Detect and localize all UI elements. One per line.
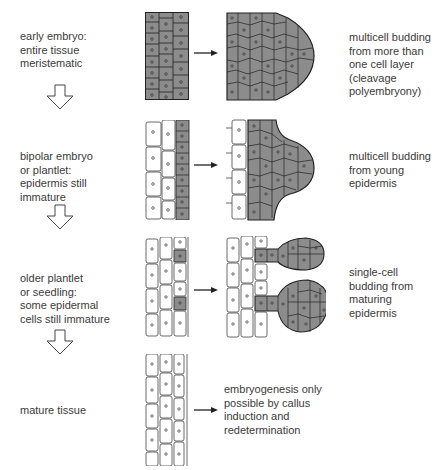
stage-3-label: older plantlet or seedling: some epiderm… [20, 272, 135, 326]
outcome-1-label: multicell budding from more than one cel… [349, 31, 443, 99]
right-arrow-icon [193, 160, 219, 170]
down-arrow-icon [45, 84, 75, 110]
single-cell-bud-drawing [226, 236, 326, 340]
stage-1-label: early embryo: entire tissue meristematic [20, 30, 135, 71]
outcome-3-label: single-cell budding from maturing epider… [349, 266, 443, 320]
right-arrow-icon [193, 285, 219, 295]
down-arrow-icon [45, 329, 75, 355]
outcome-4-label: embryogenesis only possible by callus in… [224, 383, 364, 437]
right-arrow-icon [193, 48, 219, 58]
down-arrow-icon [45, 204, 75, 230]
meristematic-tissue-drawing [145, 12, 190, 100]
stage-2-label: bipolar embryo or plantlet: epidermis st… [20, 150, 135, 204]
multicell-bud-drawing [226, 12, 316, 102]
immature-epidermis-drawing [145, 120, 190, 220]
maturing-epidermis-drawing [145, 237, 190, 337]
right-arrow-icon [193, 405, 219, 415]
young-epidermis-bud-drawing [226, 118, 316, 222]
stage-4-label: mature tissue [20, 404, 135, 418]
outcome-2-label: multicell budding from young epidermis [349, 150, 443, 191]
mature-tissue-drawing [145, 354, 190, 466]
